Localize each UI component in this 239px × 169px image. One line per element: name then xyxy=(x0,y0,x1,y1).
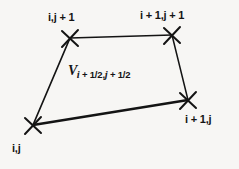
cell-edges xyxy=(33,35,188,125)
edge-right xyxy=(172,35,188,100)
cell-label-subscript-first-term: + 1/2, xyxy=(80,69,105,80)
edge-left xyxy=(33,38,70,125)
edge-top xyxy=(70,35,172,38)
vertex-label-bottom-left: i,j xyxy=(12,143,21,154)
vertex-marker-bottom-left xyxy=(25,117,41,134)
vertex-markers xyxy=(25,27,196,134)
edge-bottom xyxy=(33,100,188,125)
cell-label-subscript-second-term: + 1/2 xyxy=(108,69,131,80)
cell-center-label: Vi + 1/2,j + 1/2 xyxy=(68,62,131,78)
vertex-label-bottom-right: i + 1,j xyxy=(185,114,211,125)
vertex-label-top-right: i + 1,j + 1 xyxy=(140,10,184,21)
cell-label-subscript: i + 1/2,j + 1/2 xyxy=(77,69,131,80)
diagram-canvas xyxy=(0,0,239,169)
cell-diagram-figure: i,j + 1 i + 1,j + 1 i + 1,j i,j Vi + 1/2… xyxy=(0,0,239,169)
vertex-label-top-left: i,j + 1 xyxy=(48,12,74,23)
